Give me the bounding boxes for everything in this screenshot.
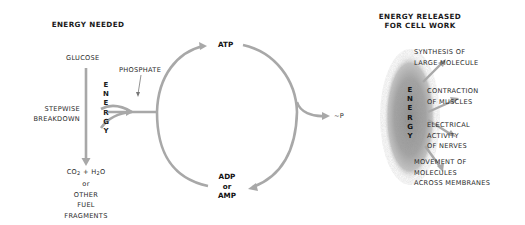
breakdown-products: CO2 + H2O or OTHER FUEL FRAGMENTS	[56, 167, 116, 222]
letter: N	[405, 95, 415, 104]
stepwise-line1: STEPWISE	[24, 105, 80, 115]
output-line: LARGE MOLECULE	[414, 58, 478, 69]
breakdown-arrow	[82, 68, 91, 166]
header-energy-needed: ENERGY NEEDED	[38, 20, 138, 29]
letter: Y	[405, 132, 415, 141]
letter: E	[405, 104, 415, 113]
letter: Y	[101, 127, 111, 136]
fuel-label: FUEL	[56, 200, 116, 211]
output-contraction: CONTRACTION OF MUSCLES	[427, 86, 478, 107]
energy-vertical-left: E N E R G Y	[101, 81, 111, 136]
letter: E	[101, 81, 111, 90]
header-energy-released-line1: ENERGY RELEASED	[370, 12, 470, 21]
header-energy-released-line2: FOR CELL WORK	[370, 21, 470, 30]
output-synthesis: SYNTHESIS OF LARGE MOLECULE	[414, 47, 478, 68]
cycle-arc-left	[157, 46, 208, 186]
output-line: ELECTRICAL	[427, 120, 470, 131]
stepwise-breakdown-label: STEPWISE BREAKDOWN	[24, 105, 80, 124]
co2-h2o-label: CO2 + H2O	[56, 167, 116, 179]
letter: G	[101, 118, 111, 127]
fragments-label: FRAGMENTS	[56, 211, 116, 222]
output-line: OF MUSCLES	[427, 97, 478, 108]
letter: R	[405, 114, 415, 123]
cycle-arc-right	[243, 45, 325, 187]
output-line: SYNTHESIS OF	[414, 47, 478, 58]
phosphate-pointer	[136, 75, 141, 97]
output-electrical: ELECTRICAL ACTIVITY OF NERVES	[427, 120, 470, 152]
glucose-label: GLUCOSE	[66, 53, 100, 64]
phosphate-label: PHOSPHATE	[119, 65, 161, 76]
adp-amp-label: ADP or AMP	[214, 172, 240, 201]
output-line: ACTIVITY	[427, 131, 470, 142]
letter: E	[405, 86, 415, 95]
adp-label: ADP	[214, 172, 240, 182]
output-line: MOVEMENT OF	[414, 157, 490, 168]
stepwise-line2: BREAKDOWN	[24, 115, 80, 125]
output-line: ACROSS MEMBRANES	[414, 178, 490, 189]
arrow-to-p	[322, 112, 330, 120]
letter: E	[101, 99, 111, 108]
output-movement: MOVEMENT OF MOLECULES ACROSS MEMBRANES	[414, 157, 490, 189]
arrow-to-atp	[199, 42, 207, 50]
other-label: OTHER	[56, 190, 116, 201]
letter: R	[101, 109, 111, 118]
output-line: CONTRACTION	[427, 86, 478, 97]
adp-or-label: or	[214, 182, 240, 192]
atp-label: ATP	[218, 40, 233, 49]
output-line: MOLECULES	[414, 168, 490, 179]
amp-label: AMP	[214, 191, 240, 201]
letter: N	[101, 90, 111, 99]
output-line: OF NERVES	[427, 141, 470, 152]
tilde-p-label: ~P	[334, 111, 344, 122]
letter: G	[405, 123, 415, 132]
or-label: or	[56, 179, 116, 190]
energy-vertical-right: E N E R G Y	[405, 86, 415, 141]
header-energy-released: ENERGY RELEASED FOR CELL WORK	[370, 12, 470, 30]
